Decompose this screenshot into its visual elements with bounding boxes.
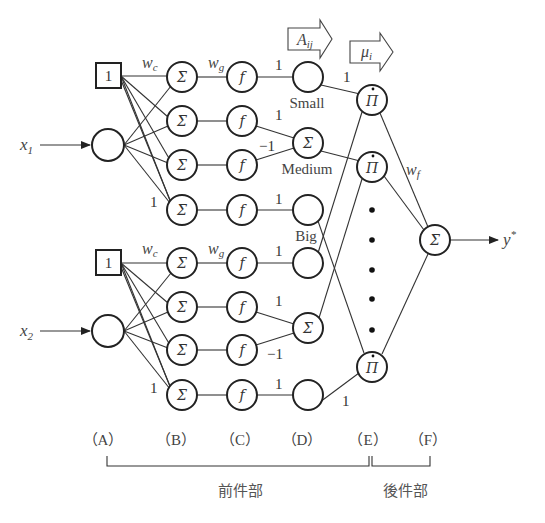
svg-text:1: 1 bbox=[275, 293, 283, 309]
svg-text:Σ: Σ bbox=[176, 299, 187, 315]
svg-text:1: 1 bbox=[275, 57, 283, 73]
svg-text:−1: −1 bbox=[267, 346, 283, 362]
svg-text:1: 1 bbox=[275, 107, 283, 123]
product-node: Π bbox=[357, 152, 387, 182]
label-big: Big bbox=[295, 228, 317, 244]
input-node-x2 bbox=[92, 315, 124, 347]
function-node: f bbox=[227, 106, 257, 136]
svg-text:Σ: Σ bbox=[176, 387, 187, 403]
svg-text:Σ: Σ bbox=[176, 69, 187, 85]
bias-label: 1 bbox=[105, 68, 113, 84]
output-sum-node: Σ bbox=[420, 225, 450, 255]
layer-b: Σ Σ Σ Σ Σ Σ Σ Σ bbox=[167, 62, 197, 410]
svg-text:1: 1 bbox=[343, 69, 351, 85]
svg-text:Σ: Σ bbox=[176, 342, 187, 358]
svg-text:Σ: Σ bbox=[302, 135, 313, 151]
label-small: Small bbox=[289, 95, 324, 111]
svg-text:Π: Π bbox=[365, 160, 379, 176]
upper-input-connections bbox=[121, 76, 172, 205]
lower-input-connections bbox=[121, 263, 172, 391]
sum-node: Σ bbox=[167, 248, 197, 278]
d-to-e-connections bbox=[318, 85, 364, 402]
layer-e: Π Π Π bbox=[357, 85, 387, 382]
svg-text:Σ: Σ bbox=[176, 255, 187, 271]
svg-text:1: 1 bbox=[150, 380, 158, 396]
svg-text:Σ: Σ bbox=[302, 320, 313, 336]
membership-node-small bbox=[293, 62, 323, 92]
sum-node: Σ bbox=[167, 335, 197, 365]
svg-text:1: 1 bbox=[150, 194, 158, 210]
svg-text:Σ: Σ bbox=[176, 202, 187, 218]
layer-label-e: （E） bbox=[348, 432, 387, 448]
consequent-label: 後件部 bbox=[383, 482, 428, 500]
membership-node-small-2 bbox=[293, 248, 323, 278]
antecedent-label: 前件部 bbox=[218, 482, 263, 500]
product-node: Π bbox=[357, 85, 387, 115]
membership-node-big bbox=[293, 195, 323, 225]
layer-label-b: （B） bbox=[156, 432, 196, 448]
svg-text:1: 1 bbox=[275, 376, 283, 392]
product-node: Π bbox=[357, 352, 387, 382]
aij-arrow: Aij bbox=[288, 20, 332, 58]
membership-node-medium-2: Σ bbox=[293, 313, 323, 343]
fuzzy-neural-network-diagram: 1 1 Σ Σ Σ Σ Σ Σ Σ Σ f f f f f f f f Σ Σ … bbox=[0, 0, 545, 523]
output-label-y: y* bbox=[501, 228, 517, 249]
b-to-c-connections bbox=[197, 77, 227, 395]
brackets: 前件部 後件部 bbox=[107, 456, 430, 500]
layer-f: Σ bbox=[420, 225, 450, 255]
x1-label: x1 bbox=[19, 135, 33, 156]
layer-a: 1 1 bbox=[92, 63, 124, 347]
function-node: f bbox=[227, 62, 257, 92]
svg-text:Π: Π bbox=[365, 93, 379, 109]
svg-text:1: 1 bbox=[275, 191, 283, 207]
svg-text:−1: −1 bbox=[259, 138, 275, 154]
ellipsis-dots bbox=[369, 207, 375, 333]
label-medium: Medium bbox=[282, 161, 333, 177]
function-node: f bbox=[227, 150, 257, 180]
function-node: f bbox=[227, 195, 257, 225]
x2-label: x2 bbox=[19, 321, 34, 342]
svg-text:Σ: Σ bbox=[176, 113, 187, 129]
layer-d: Σ Σ Small Medium Big bbox=[282, 62, 333, 410]
sum-node: Σ bbox=[167, 150, 197, 180]
function-node: f bbox=[227, 292, 257, 322]
sum-node: Σ bbox=[167, 106, 197, 136]
svg-text:Σ: Σ bbox=[429, 232, 440, 248]
weight-wc-2: wc bbox=[142, 240, 158, 259]
sum-node: Σ bbox=[167, 380, 197, 410]
layer-labels: （A） （B） （C） （D） （E） （F） bbox=[83, 432, 448, 448]
weight-wg: wg bbox=[208, 54, 225, 73]
sum-node: Σ bbox=[167, 195, 197, 225]
weight-wc: wc bbox=[142, 54, 158, 73]
bias-label: 1 bbox=[105, 255, 113, 271]
input-node-x1 bbox=[92, 129, 124, 161]
function-node: f bbox=[227, 248, 257, 278]
layer-label-f: （F） bbox=[409, 432, 447, 448]
layer-c: f f f f f f f f bbox=[227, 62, 257, 410]
svg-text:1: 1 bbox=[342, 393, 350, 409]
mui-arrow: μi bbox=[350, 33, 393, 71]
function-node: f bbox=[227, 380, 257, 410]
membership-node-medium: Σ bbox=[293, 128, 323, 158]
layer-label-a: （A） bbox=[83, 432, 124, 448]
membership-node-big-2 bbox=[293, 380, 323, 410]
weight-wf: wf bbox=[406, 161, 422, 180]
function-node: f bbox=[227, 335, 257, 365]
weight-wg-2: wg bbox=[208, 240, 225, 259]
sum-node: Σ bbox=[167, 292, 197, 322]
sum-node: Σ bbox=[167, 62, 197, 92]
svg-text:Σ: Σ bbox=[176, 157, 187, 173]
svg-text:1: 1 bbox=[275, 243, 283, 259]
svg-text:Π: Π bbox=[365, 360, 379, 376]
layer-label-d: （D） bbox=[282, 432, 323, 448]
layer-label-c: （C） bbox=[220, 432, 260, 448]
